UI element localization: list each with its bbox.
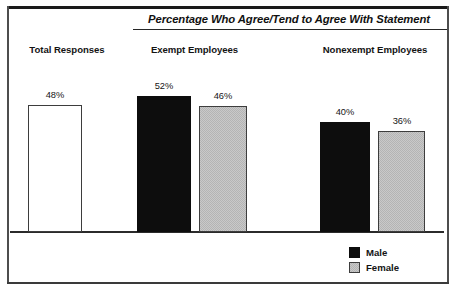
legend-label-male: Male [366,247,387,258]
legend-item-male: Male [349,245,399,260]
bar-nonexempt-employees-female [378,131,425,232]
chart-legend: Male Female [349,245,399,275]
legend-swatch-male-icon [349,247,360,258]
legend-swatch-female-icon [349,262,360,273]
bar-value-exempt-employees-male: 52% [134,81,194,91]
bar-value-nonexempt-employees-male: 40% [315,107,375,117]
chart-screenshot: Percentage Who Agree/Tend to Agree With … [0,0,456,294]
bar-exempt-employees-female [199,106,247,232]
bar-value-exempt-employees-female: 46% [193,91,253,101]
bar-total-responses-total [28,105,82,232]
bar-value-nonexempt-employees-female: 36% [372,116,432,126]
legend-item-female: Female [349,260,399,275]
legend-label-female: Female [366,262,399,273]
bar-exempt-employees-male [137,96,191,232]
bar-nonexempt-employees-male [320,122,370,232]
bar-value-total-responses-total: 48% [25,90,85,100]
